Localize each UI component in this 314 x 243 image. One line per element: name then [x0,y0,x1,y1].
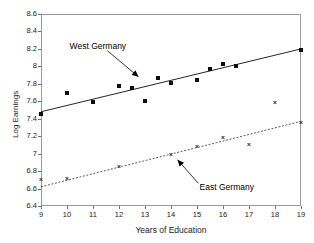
trend-line [41,121,301,186]
chart-root: 6.46.66.877.27.47.67.888.28.48.6 9101112… [0,0,314,243]
trend-line [41,49,301,112]
trend-lines-overlay [0,0,314,243]
annotation-arrow-head [132,70,139,76]
